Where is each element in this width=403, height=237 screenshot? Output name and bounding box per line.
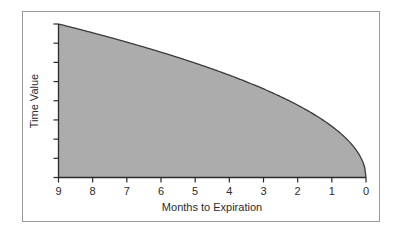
x-axis-tick-labels: 9876543210: [55, 185, 369, 197]
x-tick-label: 7: [124, 185, 130, 197]
y-axis-title: Time Value: [28, 74, 40, 128]
x-tick-label: 5: [192, 185, 198, 197]
time-value-area: [59, 24, 367, 178]
x-tick-label: 3: [260, 185, 266, 197]
x-tick-label: 6: [158, 185, 164, 197]
x-tick-label: 4: [226, 185, 232, 197]
y-axis-ticks: [54, 24, 59, 178]
x-tick-label: 1: [329, 185, 335, 197]
x-axis-ticks: [59, 178, 367, 183]
x-tick-label: 8: [90, 185, 96, 197]
x-tick-label: 9: [55, 185, 61, 197]
x-tick-label: 2: [295, 185, 301, 197]
x-tick-label: 0: [363, 185, 369, 197]
x-axis-title: Months to Expiration: [162, 201, 262, 213]
time-value-decay-figure: 9876543210 Months to Expiration Time Val…: [0, 0, 403, 237]
chart-plot-area: 9876543210 Months to Expiration Time Val…: [0, 0, 403, 237]
